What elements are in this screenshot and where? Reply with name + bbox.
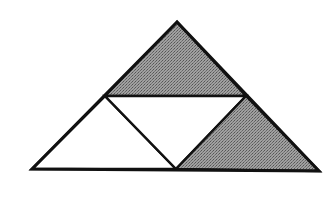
top-triangle	[105, 22, 246, 96]
triangle-diagram	[0, 0, 334, 201]
